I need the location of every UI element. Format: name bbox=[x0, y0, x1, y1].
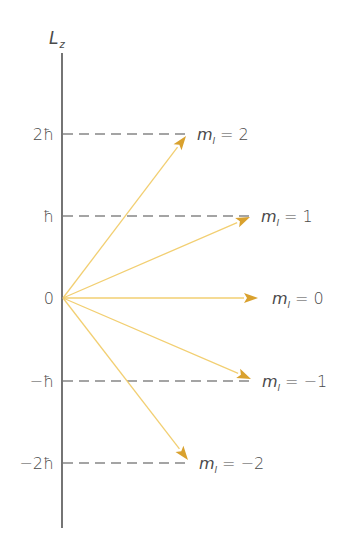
tick-label: 0 bbox=[44, 289, 54, 308]
tick-label: 2ħ bbox=[33, 125, 54, 144]
tick-label: −2ħ bbox=[19, 454, 54, 473]
ml-label: ml= 2 bbox=[197, 125, 249, 146]
arrowhead-icon bbox=[174, 136, 186, 150]
ml-label: ml= 1 bbox=[261, 207, 313, 228]
ml-label: ml= −1 bbox=[262, 372, 327, 393]
momentum-vector-shaft bbox=[63, 298, 238, 373]
tick-label: −ħ bbox=[29, 372, 54, 391]
arrowhead-icon bbox=[244, 293, 258, 303]
momentum-vector-shaft bbox=[63, 147, 178, 298]
arrowhead-icon bbox=[235, 217, 250, 227]
axis-label: Lz bbox=[49, 28, 65, 50]
ml-label: ml= 0 bbox=[272, 289, 324, 310]
arrowhead-icon bbox=[175, 446, 188, 460]
momentum-vector-shaft bbox=[63, 298, 179, 449]
axis-subscript: z bbox=[58, 39, 65, 50]
angular-momentum-quantization-diagram: Lz 2ħml= 2ħml= 10ml= 0−ħml= −1−2ħml= −2 bbox=[0, 0, 364, 547]
momentum-vector-shaft bbox=[63, 223, 237, 298]
tick-label: ħ bbox=[43, 207, 54, 226]
arrowhead-icon bbox=[236, 369, 251, 379]
ml-label: ml= −2 bbox=[199, 454, 264, 475]
